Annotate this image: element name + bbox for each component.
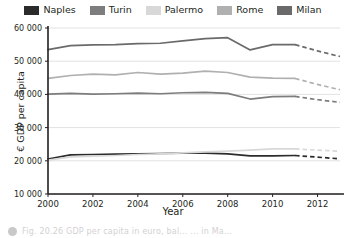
svg-text:10 000: 10 000 (14, 190, 42, 199)
legend-swatch-rome (217, 6, 232, 15)
legend-swatch-turin (90, 6, 105, 15)
chart-legend: Naples Turin Palermo Rome Milan (0, 0, 346, 20)
legend-label-rome: Rome (236, 5, 263, 15)
axis-lines (48, 26, 344, 194)
x-axis-title: Year (0, 206, 346, 217)
series-forecast-lines (295, 45, 340, 159)
plot-area: 10 00020 00030 00040 00050 00060 000 200… (0, 20, 346, 216)
series-lines (48, 38, 295, 161)
bullet-icon (8, 227, 17, 236)
svg-text:60 000: 60 000 (14, 24, 42, 33)
figure-caption: Fig. 20.26 GDP per capita in euro, bal..… (0, 224, 346, 238)
legend-label-naples: Naples (43, 5, 75, 15)
legend-item-turin: Turin (90, 5, 132, 15)
legend-swatch-palermo (146, 6, 161, 15)
legend-item-palermo: Palermo (146, 5, 203, 15)
legend-item-milan: Milan (277, 5, 321, 15)
y-axis-title: € GDP per capita (15, 47, 26, 177)
legend-swatch-milan (277, 6, 292, 15)
figure-gdp-per-capita: Naples Turin Palermo Rome Milan 10 00020… (0, 0, 346, 238)
legend-swatch-naples (24, 6, 39, 15)
legend-item-rome: Rome (217, 5, 263, 15)
gridlines (48, 28, 340, 194)
legend-label-palermo: Palermo (165, 5, 203, 15)
legend-label-turin: Turin (109, 5, 132, 15)
legend-item-naples: Naples (24, 5, 75, 15)
caption-text: Fig. 20.26 GDP per capita in euro, bal..… (22, 227, 232, 236)
line-chart-svg: 10 00020 00030 00040 00050 00060 000 200… (0, 20, 346, 216)
legend-label-milan: Milan (296, 5, 321, 15)
